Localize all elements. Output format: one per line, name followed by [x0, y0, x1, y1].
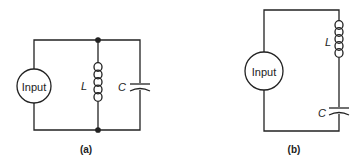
capacitor-b	[329, 108, 349, 115]
capacitor-a	[130, 84, 150, 91]
caption-a: (a)	[80, 144, 92, 155]
inductor-a	[94, 63, 102, 102]
caption-b: (b)	[288, 144, 301, 155]
input-label-a: Input	[22, 81, 46, 93]
junction-dot-bottom-a	[96, 128, 100, 132]
inductor-b	[335, 21, 343, 58]
circuit-figure: Input L C (a) Input L C (b)	[0, 0, 362, 163]
junction-dot-top-a	[96, 38, 100, 42]
input-label-b: Input	[252, 66, 276, 78]
inductor-label-b: L	[325, 36, 331, 48]
inductor-label-a: L	[81, 80, 87, 92]
capacitor-label-a: C	[118, 81, 126, 93]
capacitor-label-b: C	[318, 107, 326, 119]
